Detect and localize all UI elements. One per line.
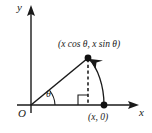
rotation-arc: [89, 59, 105, 106]
rotation-arc-arrowhead: [90, 59, 103, 70]
apex-point-label: (x cos θ, x sin θ): [58, 40, 120, 50]
point-foot-dot: [101, 102, 108, 109]
theta-angle-label: θ: [46, 89, 51, 99]
x-axis-label: x: [139, 107, 144, 118]
right-angle-marker: [78, 95, 88, 105]
origin-label: O: [18, 108, 26, 119]
figure-canvas: y x O θ (x cos θ, x sin θ) (x, 0): [0, 0, 152, 133]
y-axis-label: y: [17, 2, 22, 13]
foot-point-label: (x, 0): [88, 113, 108, 123]
point-apex-dot: [85, 55, 92, 62]
hypotenuse-line: [31, 58, 88, 105]
y-axis: [27, 5, 35, 113]
